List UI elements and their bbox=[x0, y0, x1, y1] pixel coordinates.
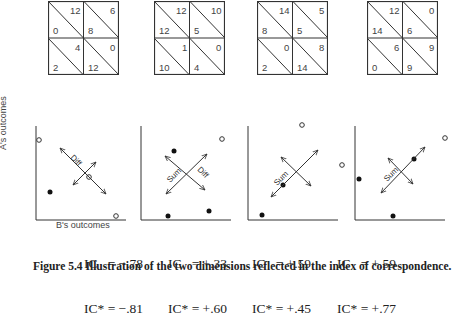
filled-point bbox=[391, 214, 396, 219]
figure-caption: Figure 5.4 Illustration of the two dimen… bbox=[33, 260, 451, 272]
open-point bbox=[220, 137, 225, 142]
diff-label: Diff bbox=[196, 165, 211, 180]
filled-point bbox=[48, 190, 53, 195]
y-axis-label: A's outcomes bbox=[0, 96, 8, 150]
diff-arrow bbox=[60, 148, 106, 194]
scatter-plot-3: Sum bbox=[248, 123, 344, 220]
scatter-plots: Diff Sum Diff Sum Sum bbox=[0, 0, 465, 230]
sum-arrow bbox=[381, 147, 425, 193]
open-point bbox=[443, 136, 448, 141]
filled-point bbox=[166, 214, 171, 219]
sum-arrow bbox=[271, 150, 318, 197]
scatter-plot-2: Sum Diff bbox=[141, 126, 231, 220]
filled-point bbox=[260, 213, 265, 218]
ic-star-value: IC* = −.81 bbox=[84, 301, 143, 316]
ic-star-value: IC* = +.60 bbox=[168, 301, 227, 316]
open-point bbox=[300, 123, 305, 128]
open-point bbox=[114, 214, 119, 219]
scatter-plot-4: Sum bbox=[355, 126, 447, 220]
ic-star-value: IC* = +.45 bbox=[252, 301, 311, 316]
diff-label: Diff bbox=[69, 153, 84, 168]
ic-star-value: IC* = +.77 bbox=[337, 301, 396, 316]
filled-point bbox=[172, 149, 177, 154]
filled-point bbox=[357, 177, 362, 182]
scatter-plot-1: Diff bbox=[36, 126, 126, 220]
open-point bbox=[340, 163, 345, 168]
filled-point bbox=[207, 209, 212, 214]
open-point bbox=[37, 138, 42, 143]
